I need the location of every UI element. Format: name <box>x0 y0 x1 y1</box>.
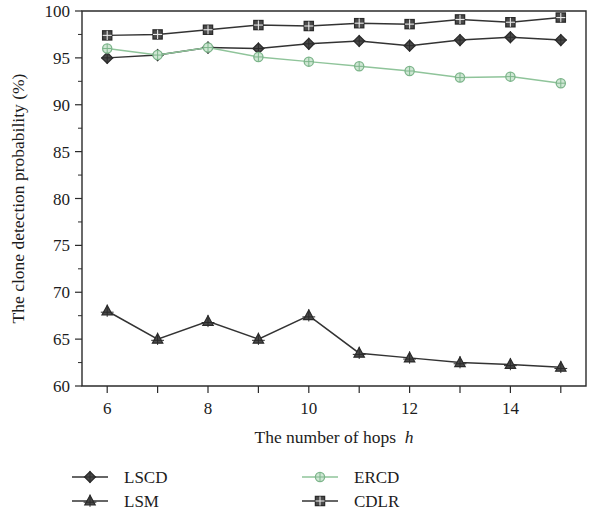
plot-frame <box>82 11 586 386</box>
series-lsm <box>101 305 567 373</box>
x-axis-ticks <box>107 386 561 393</box>
series-ercd <box>103 43 566 88</box>
legend-entry-lscd[interactable]: LSCD <box>72 468 167 487</box>
x-tick-label: 8 <box>204 399 213 418</box>
legend-entry-lsm[interactable]: LSM <box>72 492 159 511</box>
chart-canvas: 6065707580859095100 68101214 The number … <box>0 0 596 518</box>
plot-border <box>82 11 586 386</box>
y-tick-label: 65 <box>53 330 70 349</box>
chart-figure: 6065707580859095100 68101214 The number … <box>0 0 596 518</box>
y-tick-label: 80 <box>53 190 70 209</box>
x-tick-label: 10 <box>300 399 317 418</box>
series-cdlr <box>103 13 566 40</box>
x-tick-label: 12 <box>401 399 418 418</box>
legend-entry-ercd[interactable]: ERCD <box>302 468 399 487</box>
y-axis-tick-labels: 6065707580859095100 <box>45 2 71 396</box>
x-axis-title: The number of hops h <box>255 427 414 447</box>
y-tick-label: 60 <box>53 377 70 396</box>
y-tick-label: 85 <box>53 143 70 162</box>
legend-entry-cdlr[interactable]: CDLR <box>302 492 400 511</box>
chart-legend: LSCDERCDLSMCDLR <box>72 468 400 511</box>
y-tick-label: 70 <box>53 283 70 302</box>
legend-label: LSM <box>124 492 159 511</box>
series-line-ercd <box>107 48 561 84</box>
x-axis-tick-labels: 68101214 <box>103 399 519 418</box>
x-tick-label: 14 <box>502 399 520 418</box>
legend-label: ERCD <box>354 468 399 487</box>
data-series-layer <box>101 13 567 373</box>
series-line-lsm <box>107 311 561 367</box>
x-tick-label: 6 <box>103 399 112 418</box>
y-axis-ticks <box>75 11 82 386</box>
y-tick-label: 90 <box>53 96 70 115</box>
legend-label: LSCD <box>124 468 167 487</box>
y-tick-label: 95 <box>53 49 70 68</box>
y-tick-label: 100 <box>45 2 71 21</box>
legend-label: CDLR <box>354 492 400 511</box>
series-line-cdlr <box>107 18 561 36</box>
y-axis-title: The clone detection probability (%) <box>8 73 28 323</box>
y-tick-label: 75 <box>53 236 70 255</box>
series-line-lscd <box>107 37 561 58</box>
series-lscd <box>101 31 567 64</box>
